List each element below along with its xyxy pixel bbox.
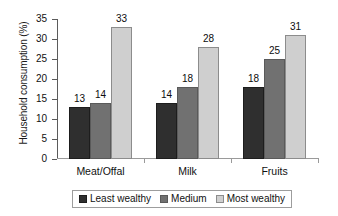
bar-chart: Household consumption (%) 05101520253035… [0, 0, 338, 216]
y-axis-tick-label: 35 [23, 14, 47, 24]
legend-entry: Least wealthy [79, 194, 151, 204]
legend-entry: Most wealthy [216, 194, 285, 204]
y-axis-tick-label: 30 [23, 34, 47, 44]
bar [69, 107, 90, 159]
y-axis-tick-label: 0 [23, 154, 47, 164]
y-axis-tick-label: 10 [23, 114, 47, 124]
y-axis-tick-label: 15 [23, 94, 47, 104]
legend-label: Least wealthy [90, 194, 151, 204]
legend-swatch-icon [216, 195, 224, 203]
legend-label: Medium [171, 194, 207, 204]
y-axis-tick-label: 5 [23, 134, 47, 144]
bar-value-label: 28 [192, 34, 225, 44]
bar-value-label: 14 [84, 90, 117, 100]
bar-value-label: 18 [171, 74, 204, 84]
x-axis-tick [318, 158, 319, 163]
x-axis-category-label: Meat/Offal [57, 165, 144, 177]
y-axis-tick-label: 20 [23, 74, 47, 84]
bar [90, 103, 111, 159]
legend-entry: Medium [160, 194, 207, 204]
bar-value-label: 33 [105, 14, 138, 24]
bar-value-label: 18 [237, 74, 270, 84]
bar [156, 103, 177, 159]
legend-label: Most wealthy [227, 194, 285, 204]
legend: Least wealthyMediumMost wealthy [72, 190, 292, 208]
bar-value-label: 31 [279, 22, 312, 32]
bar [198, 47, 219, 159]
bar-value-label: 14 [150, 90, 183, 100]
bar [243, 87, 264, 159]
legend-swatch-icon [160, 195, 168, 203]
x-axis-category-label: Milk [144, 165, 231, 177]
x-axis-category-label: Fruits [231, 165, 318, 177]
bar-value-label: 25 [258, 46, 291, 56]
y-axis-tick-label: 25 [23, 54, 47, 64]
legend-swatch-icon [79, 195, 87, 203]
